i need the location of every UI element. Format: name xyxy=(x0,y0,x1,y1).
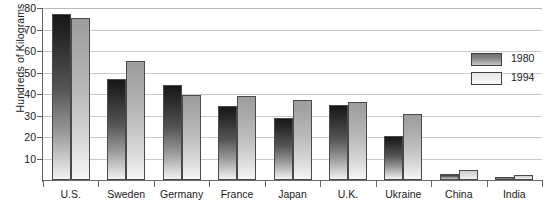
bar-chart: Hundreds of Kilograms 1020304050607080 U… xyxy=(0,0,546,207)
y-tick-50 xyxy=(37,73,42,74)
x-group-tick-2 xyxy=(154,180,155,187)
y-tick-80 xyxy=(37,8,42,9)
bar-china-1994 xyxy=(459,170,478,180)
y-tick-label-60: 60 xyxy=(10,45,36,57)
x-group-tick-9 xyxy=(542,180,543,187)
bar-france-1980 xyxy=(218,106,237,180)
legend-label-1980: 1980 xyxy=(511,52,534,64)
bars-container xyxy=(43,8,542,180)
y-tick-label-20: 20 xyxy=(10,131,36,143)
x-tick-label-china: China xyxy=(431,188,486,200)
x-tick-label-france: France xyxy=(209,188,264,200)
bar-japan-1980 xyxy=(274,118,293,180)
y-tick-10 xyxy=(37,159,42,160)
bar-uk-1994 xyxy=(348,102,367,180)
bar-sweden-1980 xyxy=(107,79,126,180)
x-group-tick-7 xyxy=(431,180,432,187)
x-tick-label-germany: Germany xyxy=(154,188,209,200)
y-tick-60 xyxy=(37,51,42,52)
bar-uk-1980 xyxy=(329,105,348,180)
dark-gradient-swatch xyxy=(471,53,502,66)
bar-us-1994 xyxy=(71,18,90,180)
x-axis-baseline xyxy=(43,180,542,181)
y-tick-30 xyxy=(37,116,42,117)
bar-germany-1994 xyxy=(182,95,201,180)
bar-sweden-1994 xyxy=(126,61,145,180)
x-tick-label-japan: Japan xyxy=(265,188,320,200)
plot-area xyxy=(43,8,542,180)
x-group-tick-4 xyxy=(265,180,266,187)
x-group-tick-5 xyxy=(320,180,321,187)
y-tick-label-50: 50 xyxy=(10,67,36,79)
x-group-tick-8 xyxy=(487,180,488,187)
x-group-tick-6 xyxy=(376,180,377,187)
legend-item-1980: 1980 xyxy=(471,51,543,70)
y-tick-label-10: 10 xyxy=(10,153,36,165)
bar-germany-1980 xyxy=(163,85,182,180)
x-group-tick-0 xyxy=(43,180,44,187)
x-tick-label-india: India xyxy=(487,188,542,200)
x-tick-label-sweden: Sweden xyxy=(98,188,153,200)
y-tick-label-40: 40 xyxy=(10,88,36,100)
legend-label-1994: 1994 xyxy=(511,71,534,83)
legend: 19801994 xyxy=(471,51,543,89)
y-tick-label-80: 80 xyxy=(10,2,36,14)
light-gradient-swatch xyxy=(471,72,502,85)
y-tick-70 xyxy=(37,30,42,31)
x-group-tick-1 xyxy=(98,180,99,187)
legend-item-1994: 1994 xyxy=(471,70,543,89)
bar-us-1980 xyxy=(52,14,71,180)
x-tick-label-ukraine: Ukraine xyxy=(376,188,431,200)
y-tick-20 xyxy=(37,137,42,138)
bar-ukraine-1994 xyxy=(403,114,422,180)
y-tick-label-30: 30 xyxy=(10,110,36,122)
bar-france-1994 xyxy=(237,96,256,180)
y-tick-40 xyxy=(37,94,42,95)
x-group-tick-3 xyxy=(209,180,210,187)
x-tick-label-us: U.S. xyxy=(43,188,98,200)
y-tick-label-70: 70 xyxy=(10,24,36,36)
x-tick-label-uk: U.K. xyxy=(320,188,375,200)
bar-ukraine-1980 xyxy=(384,136,403,180)
bar-japan-1994 xyxy=(293,100,312,180)
